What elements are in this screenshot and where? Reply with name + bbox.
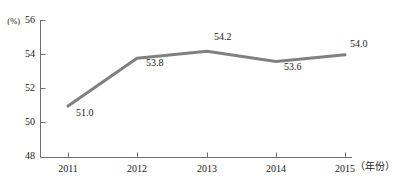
x-axis-unit-label: （年份） bbox=[355, 162, 395, 172]
data-label-2011: 51.0 bbox=[76, 108, 94, 118]
x-tick-label-2012: 2012 bbox=[117, 164, 157, 174]
y-tick-label-52: 52 bbox=[13, 83, 35, 93]
x-tick-label-2014: 2014 bbox=[256, 164, 296, 174]
y-tick-label-48: 48 bbox=[13, 151, 35, 161]
series-line bbox=[68, 51, 345, 106]
x-axis-ticks bbox=[69, 153, 346, 158]
y-axis-ticks bbox=[41, 21, 46, 123]
y-tick-label-56: 56 bbox=[13, 15, 35, 25]
line-chart-figure: (%) 56 54 52 50 48 2011 2012 2013 2014 2… bbox=[0, 0, 403, 187]
chart-plot-area bbox=[0, 0, 403, 187]
y-tick-label-54: 54 bbox=[13, 49, 35, 59]
data-label-2014: 53.6 bbox=[284, 62, 302, 72]
data-label-2013: 54.2 bbox=[214, 32, 232, 42]
x-tick-label-2011: 2011 bbox=[48, 164, 88, 174]
y-tick-label-50: 50 bbox=[13, 117, 35, 127]
data-label-2012: 53.8 bbox=[146, 58, 164, 68]
x-tick-label-2013: 2013 bbox=[187, 164, 227, 174]
data-label-2015: 54.0 bbox=[350, 39, 368, 49]
